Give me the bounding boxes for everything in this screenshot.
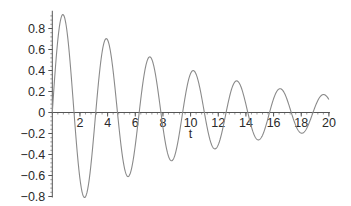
y-tick-label: 0.6 <box>28 43 45 57</box>
y-tick-label: −0.6 <box>21 169 46 183</box>
damped-oscillation-chart: −0.8−0.6−0.4−0.200.20.40.60.8 2468101214… <box>0 0 351 206</box>
y-tick-label: −0.8 <box>21 190 46 204</box>
y-tick-label: 0 <box>38 106 45 120</box>
y-tick-label: −0.4 <box>21 148 46 162</box>
y-axis: −0.8−0.6−0.4−0.200.20.40.60.8 <box>21 11 53 204</box>
x-tick-label: 14 <box>239 116 253 130</box>
x-tick-label: 20 <box>322 116 336 130</box>
y-tick-label: 0.4 <box>28 64 45 78</box>
y-tick-label: −0.2 <box>21 127 46 141</box>
y-tick-label: 0.8 <box>28 22 45 36</box>
data-series-line <box>52 15 329 198</box>
x-axis-label: t <box>189 127 193 141</box>
x-tick-label: 2 <box>76 116 83 130</box>
y-tick-label: 0.2 <box>28 85 45 99</box>
x-tick-label: 4 <box>104 116 111 130</box>
